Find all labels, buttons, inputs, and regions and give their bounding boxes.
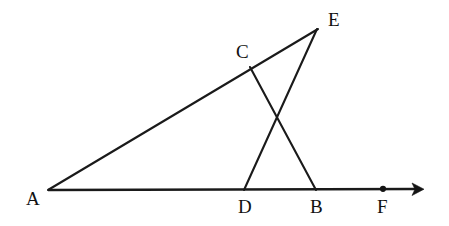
label-point-c: C (236, 42, 249, 61)
segment-a-e (48, 29, 318, 190)
label-point-f: F (377, 197, 388, 216)
label-point-d: D (238, 197, 252, 216)
geometry-figure: A C E D B F (0, 0, 449, 226)
ray-a-to-f (48, 189, 415, 190)
geometry-canvas (0, 0, 449, 226)
point-f-dot (380, 186, 386, 192)
label-point-b: B (310, 197, 323, 216)
label-point-a: A (26, 189, 40, 208)
label-point-e: E (328, 10, 340, 29)
segment-d-e (244, 29, 317, 190)
segment-c-b (250, 67, 316, 190)
